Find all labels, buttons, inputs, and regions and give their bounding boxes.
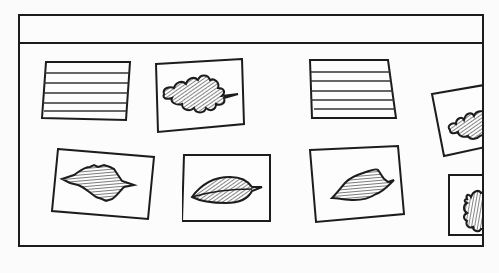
bulletin-board-frame — [18, 14, 484, 247]
wavy-leaf-card-drawing — [308, 144, 408, 224]
lined-notecard — [40, 60, 132, 122]
lined-notecard-drawing — [308, 58, 400, 120]
leaf-picture-card — [154, 58, 246, 134]
smooth-leaf-card-drawing — [182, 153, 272, 223]
lobed-leaf-icon — [464, 191, 482, 231]
lobed-leaf-card-drawing — [447, 173, 482, 237]
leaf-picture-card — [50, 147, 156, 221]
leaf-picture-card — [308, 144, 408, 224]
lined-notecard — [308, 58, 400, 120]
oak-leaf-card-drawing — [154, 58, 246, 134]
lined-notecard-drawing — [40, 60, 132, 122]
bulletin-board-area — [20, 44, 482, 245]
serrated-leaf-card-drawing — [50, 147, 156, 221]
leaf-picture-card-partial — [447, 173, 482, 237]
oak-leaf-card-drawing — [430, 84, 482, 158]
bulletin-board-header-strip — [20, 16, 482, 44]
leaf-picture-card-partial — [430, 84, 482, 158]
leaf-picture-card — [182, 153, 272, 223]
